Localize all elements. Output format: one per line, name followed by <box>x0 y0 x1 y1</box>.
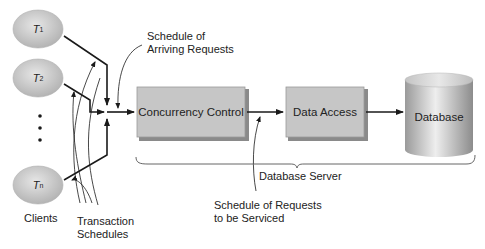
client-label-t2: T2 <box>13 70 63 86</box>
client-label-t1: T1 <box>13 21 63 37</box>
client-label-tn: Tn <box>13 177 63 193</box>
client-lines <box>64 36 134 180</box>
arriving-requests-label: Schedule of Arriving Requests <box>147 30 234 56</box>
serviced-label: Schedule of Requests to be Serviced <box>214 199 322 225</box>
data-access-label: Data Access <box>286 87 364 137</box>
database-label: Database <box>405 92 473 142</box>
server-brace <box>136 155 475 168</box>
transaction-schedules-label: Transaction Schedules <box>77 215 134 241</box>
concurrency-control-label: Concurrency Control <box>137 87 245 137</box>
clients-caption: Clients <box>24 212 58 225</box>
ellipsis-dots <box>38 114 42 142</box>
database-server-label: Database Server <box>259 170 342 183</box>
transaction-schedule-curves <box>72 62 100 205</box>
